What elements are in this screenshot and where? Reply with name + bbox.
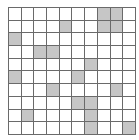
grid-cell-shaded bbox=[98, 21, 111, 34]
grid-cell bbox=[123, 71, 136, 84]
grid-cell bbox=[60, 84, 73, 97]
grid-cell bbox=[60, 97, 73, 110]
grid-cell bbox=[47, 8, 60, 21]
grid-cell bbox=[60, 33, 73, 46]
grid-cell bbox=[22, 84, 35, 97]
grid-cell bbox=[9, 8, 22, 21]
grid-cell bbox=[22, 97, 35, 110]
grid-cell bbox=[111, 46, 124, 59]
grid-cell bbox=[98, 97, 111, 110]
grid-cell bbox=[22, 46, 35, 59]
grid-cell bbox=[34, 8, 47, 21]
grid-cell bbox=[47, 59, 60, 72]
grid-cell bbox=[123, 33, 136, 46]
grid-cell bbox=[72, 59, 85, 72]
grid-cell bbox=[72, 33, 85, 46]
grid-cell bbox=[98, 84, 111, 97]
grid-cell-shaded bbox=[98, 8, 111, 21]
grid-cell bbox=[85, 71, 98, 84]
grid-cell bbox=[34, 110, 47, 123]
grid-cell bbox=[72, 8, 85, 21]
grid-cell bbox=[123, 46, 136, 59]
grid-cell bbox=[60, 8, 73, 21]
grid-cell bbox=[9, 110, 22, 123]
grid-cell bbox=[123, 97, 136, 110]
grid-cell-shaded bbox=[47, 46, 60, 59]
grid-cell bbox=[34, 59, 47, 72]
grid-cell-shaded bbox=[47, 84, 60, 97]
grid-cell bbox=[111, 110, 124, 123]
grid-cell bbox=[47, 21, 60, 34]
grid-cell bbox=[9, 46, 22, 59]
grid-cell bbox=[85, 46, 98, 59]
grid-cell-shaded bbox=[111, 84, 124, 97]
grid-cell bbox=[98, 71, 111, 84]
grid-cell bbox=[123, 8, 136, 21]
grid-cell bbox=[98, 46, 111, 59]
grid-cell bbox=[34, 84, 47, 97]
grid-cell-shaded bbox=[60, 21, 73, 34]
grid-cell bbox=[22, 8, 35, 21]
shaded-grid bbox=[8, 7, 136, 135]
grid-cell-shaded bbox=[85, 110, 98, 123]
grid-cell bbox=[60, 71, 73, 84]
grid-cell bbox=[22, 59, 35, 72]
grid-cell bbox=[123, 84, 136, 97]
grid-cell bbox=[60, 110, 73, 123]
grid-cell bbox=[72, 21, 85, 34]
grid-cell bbox=[47, 71, 60, 84]
grid-cell-shaded bbox=[85, 122, 98, 135]
grid-cell-shaded bbox=[34, 46, 47, 59]
grid-cell bbox=[123, 21, 136, 34]
grid-cell bbox=[98, 122, 111, 135]
grid-cell-shaded bbox=[85, 97, 98, 110]
grid-cell bbox=[85, 21, 98, 34]
grid-cell-shaded bbox=[111, 21, 124, 34]
grid-cell bbox=[85, 33, 98, 46]
grid-cell bbox=[9, 97, 22, 110]
grid-cell bbox=[98, 33, 111, 46]
grid-cell bbox=[85, 84, 98, 97]
grid-cell bbox=[22, 122, 35, 135]
grid-cell bbox=[34, 122, 47, 135]
grid-cell bbox=[47, 122, 60, 135]
grid-cell bbox=[34, 21, 47, 34]
grid-cell bbox=[47, 110, 60, 123]
grid-cell bbox=[111, 97, 124, 110]
grid-cell bbox=[98, 59, 111, 72]
grid-cell bbox=[47, 97, 60, 110]
grid-cell bbox=[22, 33, 35, 46]
grid-cell bbox=[34, 71, 47, 84]
grid-cell-shaded bbox=[22, 110, 35, 123]
grid-cell bbox=[123, 59, 136, 72]
grid-cell-shaded bbox=[123, 122, 136, 135]
grid-cell bbox=[34, 33, 47, 46]
grid-cell bbox=[123, 110, 136, 123]
grid-cell bbox=[9, 59, 22, 72]
grid-cell-shaded bbox=[72, 71, 85, 84]
grid-cell-shaded bbox=[72, 97, 85, 110]
grid-cell bbox=[22, 21, 35, 34]
grid-cell-shaded bbox=[9, 33, 22, 46]
grid-cell bbox=[98, 110, 111, 123]
grid-cell bbox=[111, 33, 124, 46]
grid-cell bbox=[72, 84, 85, 97]
grid-cell bbox=[72, 122, 85, 135]
grid-cell bbox=[22, 71, 35, 84]
grid-cell bbox=[111, 59, 124, 72]
grid-cell bbox=[111, 71, 124, 84]
grid-cell bbox=[111, 122, 124, 135]
grid-cell bbox=[60, 59, 73, 72]
grid-cell-shaded bbox=[9, 71, 22, 84]
grid-cell bbox=[9, 84, 22, 97]
grid-cell bbox=[34, 97, 47, 110]
grid-cell bbox=[72, 110, 85, 123]
grid-cell bbox=[72, 46, 85, 59]
grid-cell bbox=[9, 122, 22, 135]
grid-cell-shaded bbox=[85, 59, 98, 72]
grid-cell bbox=[60, 46, 73, 59]
grid-cell bbox=[60, 122, 73, 135]
grid-cell-shaded bbox=[111, 8, 124, 21]
grid-cell bbox=[9, 21, 22, 34]
grid-cell bbox=[47, 33, 60, 46]
